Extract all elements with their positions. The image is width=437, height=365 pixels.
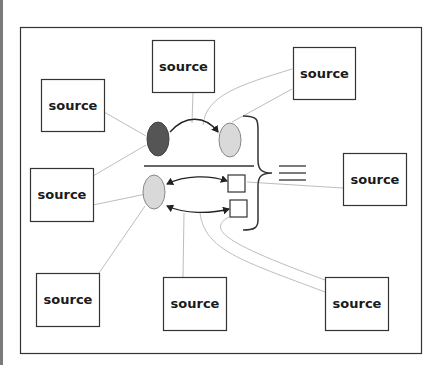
svg-text:source: source — [171, 296, 220, 311]
diagram-canvas: source source source source source sourc… — [0, 0, 437, 365]
bidirectional-arrow-1 — [167, 177, 227, 184]
source-box-left-top: source — [42, 80, 105, 132]
equivalence-icon — [279, 166, 306, 180]
source-box-bottom-right: source — [326, 278, 389, 331]
svg-text:source: source — [38, 187, 87, 202]
svg-text:source: source — [44, 292, 93, 307]
source-box-top-right: source — [294, 48, 356, 100]
svg-text:source: source — [351, 172, 400, 187]
bidirectional-arrow-2 — [167, 206, 229, 212]
small-square-2 — [230, 200, 247, 217]
svg-text:source: source — [333, 296, 382, 311]
light-node-top — [219, 123, 241, 157]
arrow-dark-to-light — [170, 119, 218, 132]
source-box-top-center: source — [153, 41, 215, 93]
source-box-bottom-center: source — [164, 278, 227, 331]
light-node-bottom — [143, 175, 165, 209]
source-box-left-middle: source — [31, 169, 94, 222]
svg-text:source: source — [49, 98, 98, 113]
small-square-1 — [228, 175, 245, 192]
svg-text:source: source — [300, 66, 349, 81]
dark-node — [147, 122, 169, 156]
svg-text:source: source — [159, 59, 208, 74]
source-box-right-middle: source — [344, 154, 407, 206]
source-box-bottom-left: source — [37, 274, 100, 327]
